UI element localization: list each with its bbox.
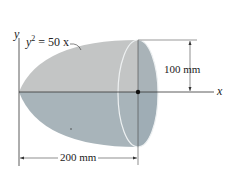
length-dimension-label: 200 mm bbox=[58, 152, 98, 163]
surface-speck bbox=[70, 128, 71, 129]
diagram-graphic bbox=[0, 0, 233, 178]
radius-dimension-label: 100 mm bbox=[164, 64, 200, 75]
length-arrow-right bbox=[133, 157, 137, 160]
length-arrow-left bbox=[20, 157, 24, 160]
paraboloid-diagram: y x y2 = 50 x 100 mm 200 mm bbox=[0, 0, 233, 178]
curve-equation: y2 = 50 x bbox=[26, 35, 69, 48]
equation-rhs: = 50 x bbox=[35, 35, 69, 49]
radius-arrow-bottom bbox=[189, 87, 192, 91]
radius-arrow-top bbox=[189, 41, 192, 45]
x-axis-label: x bbox=[217, 85, 222, 97]
y-axis-label: y bbox=[14, 28, 19, 40]
center-point bbox=[136, 90, 140, 94]
